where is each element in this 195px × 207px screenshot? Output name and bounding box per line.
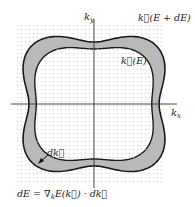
dk-label: dk⃗ xyxy=(47,147,65,158)
inner-contour-label: k⃗(E) xyxy=(121,55,147,66)
kx-axis-label: kx xyxy=(171,107,181,120)
constant-energy-surface-diagram: ky kx k⃗(E + dE) k⃗(E) dk⃗ dE = ∇kE(k⃗) … xyxy=(0,0,195,207)
outer-contour-label: k⃗(E + dE) xyxy=(138,12,191,23)
equation-label: dE = ∇kE(k⃗) · dk⃗ xyxy=(17,188,107,201)
ky-axis-label: ky xyxy=(84,11,95,24)
